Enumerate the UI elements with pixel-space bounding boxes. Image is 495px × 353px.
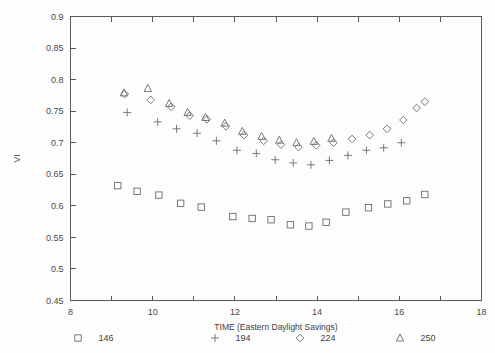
marker-square — [268, 217, 274, 223]
marker-diamond — [413, 104, 421, 112]
series-224 — [121, 90, 429, 151]
marker-triangle — [396, 334, 403, 341]
marker-diamond — [421, 98, 429, 106]
legend-label: 146 — [98, 333, 113, 343]
legend-label: 224 — [320, 333, 335, 343]
marker-triangle — [293, 139, 300, 146]
marker-diamond — [348, 135, 356, 143]
legend-label: 194 — [235, 333, 250, 343]
x-axis-title: TIME (Eastern Daylight Savings) — [214, 322, 337, 332]
marker-square — [115, 182, 121, 188]
series-250 — [120, 84, 335, 145]
chart-figure: 810121416180.450.50.550.60.650.70.750.80… — [0, 0, 495, 353]
y-tick-label: 0.55 — [46, 233, 64, 243]
x-tick-label: 18 — [476, 307, 486, 317]
marker-square — [385, 201, 391, 207]
marker-square — [343, 209, 349, 215]
y-tick-label: 0.75 — [46, 106, 64, 116]
y-tick-label: 0.45 — [46, 296, 64, 306]
marker-diamond — [400, 116, 408, 124]
legend-entry-194[interactable]: 194 — [211, 333, 251, 343]
y-tick-label: 0.65 — [46, 169, 64, 179]
marker-diamond — [383, 125, 391, 133]
legend-label: 250 — [420, 333, 435, 343]
y-tick-label: 0.6 — [51, 201, 64, 211]
legend-entry-250[interactable]: 250 — [396, 333, 435, 343]
marker-diamond — [366, 131, 374, 139]
marker-square — [365, 205, 371, 211]
marker-square — [249, 215, 255, 221]
marker-triangle — [221, 119, 228, 126]
marker-diamond — [296, 334, 304, 342]
marker-diamond — [260, 137, 268, 145]
marker-diamond — [330, 139, 338, 147]
y-tick-label: 0.9 — [51, 12, 64, 22]
marker-square — [287, 222, 293, 228]
scatter-plot-canvas: 810121416180.450.50.550.60.650.70.750.80… — [0, 0, 495, 353]
marker-square — [177, 200, 183, 206]
marker-square — [75, 335, 81, 341]
marker-square — [230, 213, 236, 219]
marker-triangle — [328, 134, 335, 141]
x-tick-label: 8 — [68, 307, 73, 317]
marker-square — [422, 191, 428, 197]
marker-square — [134, 188, 140, 194]
x-tick-label: 12 — [230, 307, 240, 317]
series-146 — [115, 182, 428, 229]
y-tick-label: 0.85 — [46, 43, 64, 53]
marker-square — [403, 198, 409, 204]
legend-entry-224[interactable]: 224 — [296, 333, 335, 343]
x-tick-label: 14 — [312, 307, 322, 317]
marker-square — [198, 204, 204, 210]
marker-square — [306, 223, 312, 229]
marker-diamond — [147, 96, 155, 104]
plot-frame — [71, 17, 482, 301]
marker-square — [156, 192, 162, 198]
y-tick-label: 0.5 — [51, 264, 64, 274]
marker-diamond — [295, 143, 303, 151]
y-axis-title: VI — [12, 154, 22, 162]
marker-diamond — [240, 131, 248, 139]
x-tick-label: 10 — [148, 307, 158, 317]
x-tick-label: 16 — [394, 307, 404, 317]
marker-square — [323, 219, 329, 225]
marker-diamond — [277, 141, 285, 149]
y-tick-label: 0.8 — [51, 75, 64, 85]
series-194 — [123, 108, 405, 168]
y-tick-label: 0.7 — [51, 138, 64, 148]
legend-entry-146[interactable]: 146 — [75, 333, 114, 343]
marker-triangle — [144, 84, 151, 91]
marker-triangle — [258, 132, 265, 139]
